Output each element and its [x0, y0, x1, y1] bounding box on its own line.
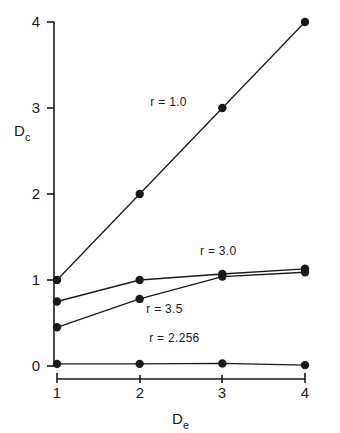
series-annotation-r-2-256: r = 2.256	[149, 331, 199, 345]
series-1	[53, 18, 309, 284]
series-line	[57, 22, 305, 280]
x-tick-label-1: 1	[53, 384, 61, 401]
x-axis-ticks	[57, 373, 305, 383]
series-annotation-r-1-0: r = 1.0	[150, 95, 186, 109]
y-axis-title-subscript: c	[25, 131, 31, 143]
data-point-marker	[53, 297, 61, 305]
series-line	[57, 363, 305, 365]
y-tick-label-3: 3	[32, 99, 40, 116]
data-point-marker	[53, 276, 61, 284]
y-tick-label-1: 1	[32, 271, 40, 288]
y-tick-label-4: 4	[32, 13, 40, 30]
series-line	[57, 272, 305, 327]
data-point-marker	[218, 104, 226, 112]
line-chart-plot: 0 1 2 3 4 D c 1 2 3 4 D e r =	[0, 0, 340, 433]
data-point-marker	[53, 323, 61, 331]
series-layer	[53, 18, 309, 370]
y-axis-title-base: D	[14, 122, 25, 139]
x-axis-title: D e	[172, 410, 189, 431]
data-point-marker	[301, 268, 309, 276]
data-point-marker	[218, 359, 226, 367]
series-2	[53, 265, 309, 306]
data-point-marker	[301, 361, 309, 369]
series-annotation-r-3-0: r = 3.0	[200, 244, 236, 258]
series-4	[53, 359, 309, 369]
series-annotation-r-3-5: r = 3.5	[146, 302, 182, 316]
data-point-marker	[53, 360, 61, 368]
data-point-marker	[135, 276, 143, 284]
x-axis-title-base: D	[172, 410, 183, 427]
data-point-marker	[218, 272, 226, 280]
y-axis-title: D c	[14, 122, 31, 143]
data-point-marker	[135, 360, 143, 368]
y-axis-ticks	[47, 22, 54, 366]
x-tick-label-4: 4	[301, 384, 309, 401]
data-point-marker	[135, 295, 143, 303]
data-point-marker	[135, 190, 143, 198]
x-axis-title-subscript: e	[183, 419, 189, 431]
data-point-marker	[301, 18, 309, 26]
x-tick-label-2: 2	[136, 384, 144, 401]
y-tick-label-2: 2	[32, 185, 40, 202]
y-tick-label-0: 0	[32, 357, 40, 374]
x-tick-label-3: 3	[218, 384, 226, 401]
chart-figure: 0 1 2 3 4 D c 1 2 3 4 D e r =	[0, 0, 340, 433]
